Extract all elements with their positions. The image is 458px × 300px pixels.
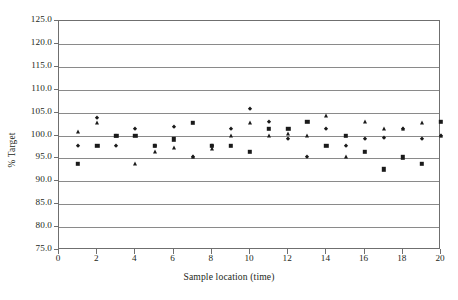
data-point-triangle [248,120,252,124]
data-point-square [248,149,252,153]
data-point-square [267,126,271,130]
data-point-diamond [228,126,233,131]
data-point-triangle [229,133,233,137]
data-point-square [439,120,443,124]
data-point-diamond [133,126,138,131]
gridline [59,158,439,159]
data-point-square [381,167,385,171]
y-tick-label: 80.0 [8,220,52,230]
x-tick-label: 4 [119,253,149,263]
x-tick-mark [58,249,59,254]
data-point-square [305,120,309,124]
x-tick-mark [440,249,441,254]
y-tick-label: 100.0 [8,129,52,139]
data-point-diamond [362,137,367,142]
data-point-square [343,134,347,138]
x-tick-mark [134,249,135,254]
data-point-square [152,143,156,147]
data-point-square [76,162,80,166]
x-tick-label: 10 [234,253,264,263]
y-tick-label: 105.0 [8,106,52,116]
data-point-triangle [172,146,176,150]
data-point-diamond [381,135,386,140]
data-point-triangle [76,129,80,133]
data-point-diamond [343,143,348,148]
y-tick-label: 85.0 [8,197,52,207]
x-tick-mark [249,249,250,254]
gridline [59,44,439,45]
data-point-diamond [114,143,119,148]
x-tick-label: 20 [425,253,455,263]
gridline [59,204,439,205]
y-tick-label: 75.0 [8,243,52,253]
data-point-triangle [363,119,367,123]
x-tick-label: 8 [196,253,226,263]
data-point-square [95,143,99,147]
gridline [59,90,439,91]
data-point-triangle [95,120,99,124]
x-tick-mark [96,249,97,254]
data-point-triangle [324,114,328,118]
data-point-triangle [344,155,348,159]
x-tick-label: 18 [387,253,417,263]
y-tick-label: 120.0 [8,37,52,47]
data-point-square [171,137,175,141]
gridline [59,113,439,114]
data-point-diamond [248,107,253,112]
data-point-square [401,155,405,159]
x-tick-mark [173,249,174,254]
y-tick-label: 115.0 [8,60,52,70]
data-point-triangle [286,132,290,136]
data-point-triangle [191,155,195,159]
gridline [59,181,439,182]
data-point-triangle [401,126,405,130]
y-tick-label: 110.0 [8,83,52,93]
data-point-triangle [114,133,118,137]
data-point-square [190,120,194,124]
data-point-diamond [171,125,176,130]
x-tick-mark [364,249,365,254]
x-tick-label: 6 [158,253,188,263]
chart-figure: % Target 75.080.085.090.095.0100.0105.01… [0,0,458,300]
data-point-triangle [133,161,137,165]
data-point-square [133,134,137,138]
plot-area [58,20,440,249]
y-tick-label: 90.0 [8,174,52,184]
data-point-triangle [305,133,309,137]
y-tick-label: 125.0 [8,14,52,24]
x-tick-label: 12 [272,253,302,263]
x-tick-mark [211,249,212,254]
data-point-square [420,162,424,166]
data-point-diamond [286,137,291,142]
data-point-diamond [419,137,424,142]
x-axis-title: Sample location (time) [0,271,458,282]
data-point-triangle [267,133,271,137]
x-tick-label: 2 [81,253,111,263]
data-point-triangle [420,120,424,124]
data-point-square [324,143,328,147]
x-tick-label: 0 [43,253,73,263]
x-tick-mark [325,249,326,254]
x-tick-mark [402,249,403,254]
data-point-triangle [210,147,214,151]
data-point-diamond [267,119,272,124]
data-point-square [286,126,290,130]
x-tick-mark [287,249,288,254]
x-tick-label: 14 [310,253,340,263]
data-point-diamond [76,143,81,148]
data-point-triangle [382,126,386,130]
data-point-square [362,149,366,153]
data-point-square [229,143,233,147]
gridline [59,227,439,228]
x-tick-label: 16 [349,253,379,263]
data-point-triangle [439,133,443,137]
data-point-diamond [324,126,329,131]
gridline [59,67,439,68]
y-tick-label: 95.0 [8,151,52,161]
data-point-triangle [153,149,157,153]
